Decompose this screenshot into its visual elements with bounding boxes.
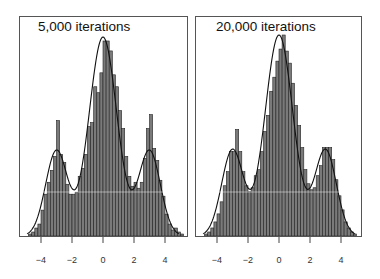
- histogram-bar: [81, 168, 84, 236]
- histogram-bar: [307, 184, 310, 236]
- histogram-bar: [84, 154, 87, 236]
- histogram-bar: [298, 125, 301, 236]
- histogram-bar: [75, 192, 78, 236]
- histogram-bar: [78, 176, 81, 236]
- histogram-bar: [229, 152, 232, 236]
- panel-20000-iterations: 20,000 iterations −4−2024: [196, 17, 362, 266]
- histogram-bar: [44, 194, 47, 236]
- histogram-bar: [310, 190, 313, 236]
- histogram-bar: [38, 224, 41, 236]
- panel-title: 5,000 iterations: [38, 19, 131, 34]
- histogram-bar: [353, 234, 356, 236]
- histogram-bar: [217, 214, 220, 236]
- histogram-bar: [257, 170, 260, 236]
- x-tick-label: 0: [100, 255, 105, 265]
- histogram-bar: [88, 127, 91, 236]
- histogram-bar: [94, 87, 97, 236]
- histogram-bar: [248, 192, 251, 236]
- histogram-bar: [211, 228, 214, 236]
- histogram-bar: [313, 188, 316, 236]
- histogram-bar: [150, 115, 153, 236]
- histogram-bar: [122, 129, 125, 236]
- x-tick-label: 2: [307, 255, 312, 265]
- x-tick-label: 4: [162, 255, 167, 265]
- histogram-bar: [35, 228, 38, 236]
- histogram-bar: [304, 170, 307, 236]
- histogram-bar: [171, 230, 174, 236]
- x-tick-label: 2: [131, 255, 136, 265]
- panel-5000-iterations: 5,000 iterations −4−2024: [20, 17, 188, 266]
- histogram-bar: [140, 182, 143, 236]
- histogram-bar: [109, 51, 112, 236]
- histogram-bar: [103, 41, 106, 236]
- histogram-bar: [50, 170, 53, 236]
- histogram-bar: [233, 152, 236, 236]
- x-axis: −4−2024: [212, 237, 344, 265]
- histogram-bar: [316, 176, 319, 236]
- histogram-bar: [254, 176, 257, 236]
- histogram-bar: [181, 234, 184, 236]
- histogram-bar: [97, 93, 100, 236]
- histogram-bar: [279, 49, 282, 236]
- histogram-bar: [125, 156, 128, 236]
- histogram-bar: [143, 158, 146, 236]
- x-axis: −4−2024: [36, 237, 168, 265]
- histogram-bar: [264, 131, 267, 236]
- histogram-bar: [106, 41, 109, 236]
- histogram-bar: [276, 61, 279, 236]
- histogram-bar: [273, 77, 276, 236]
- histogram-bar: [41, 210, 44, 236]
- histogram-bar: [282, 35, 285, 236]
- panel-title: 20,000 iterations: [216, 19, 316, 34]
- histogram-bar: [168, 224, 171, 236]
- histogram-bar: [251, 188, 254, 236]
- x-tick-label: −2: [243, 255, 253, 265]
- histogram-bar: [69, 194, 72, 236]
- histogram-bars: [205, 35, 357, 236]
- histogram-bar: [137, 188, 140, 236]
- histogram-bar: [134, 182, 137, 236]
- histogram-bar: [260, 152, 263, 236]
- histogram-bar: [146, 129, 149, 236]
- histogram-bar: [100, 73, 103, 236]
- histogram-bar: [226, 172, 229, 236]
- histogram-bar: [223, 186, 226, 236]
- histogram-bar: [57, 121, 60, 236]
- histogram-bar: [47, 182, 50, 236]
- histogram-bar: [32, 232, 35, 236]
- x-tick-label: 4: [338, 255, 343, 265]
- histogram-bar: [53, 156, 56, 236]
- histogram-bar: [63, 162, 66, 236]
- histogram-bar: [267, 115, 270, 236]
- histogram-bar: [285, 51, 288, 236]
- histogram-bar: [295, 105, 298, 236]
- histogram-bars: [29, 41, 184, 236]
- histogram-bar: [214, 222, 217, 236]
- x-tick-label: −4: [212, 255, 222, 265]
- histogram-bar: [270, 91, 273, 236]
- histogram-comparison-figure: 5,000 iterations −4−2024 20,000 iteratio…: [0, 0, 380, 279]
- histogram-bar: [319, 166, 322, 236]
- histogram-bar: [165, 214, 168, 236]
- histogram-bar: [236, 129, 239, 236]
- histogram-bar: [131, 186, 134, 236]
- histogram-bar: [60, 154, 63, 236]
- x-tick-label: −4: [36, 255, 46, 265]
- x-tick-label: 0: [276, 255, 281, 265]
- histogram-bar: [205, 234, 208, 236]
- x-tick-label: −2: [67, 255, 77, 265]
- histogram-bar: [245, 186, 248, 236]
- histogram-bar: [72, 194, 75, 236]
- histogram-bar: [208, 232, 211, 236]
- histogram-bar: [220, 202, 223, 236]
- histogram-bar: [29, 234, 32, 236]
- histogram-bar: [91, 123, 94, 236]
